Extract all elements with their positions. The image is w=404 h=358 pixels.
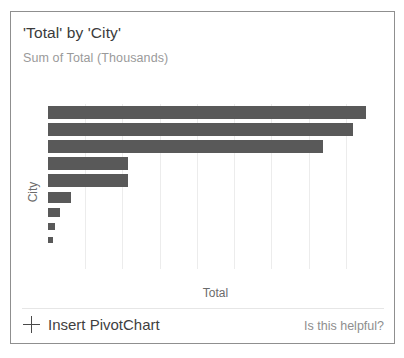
- footer-divider: [22, 308, 384, 309]
- pivotchart-recommendation-card: 'Total' by 'City' Sum of Total (Thousand…: [10, 11, 395, 344]
- plus-icon: [23, 316, 40, 333]
- bar-series: [48, 104, 383, 269]
- bar-row: [48, 106, 383, 119]
- y-axis-title-label: City: [26, 181, 40, 202]
- y-axis-title: City: [23, 104, 43, 279]
- bar-row: [48, 208, 383, 217]
- bar: [48, 237, 53, 243]
- chart-header: 'Total' by 'City' Sum of Total (Thousand…: [23, 24, 386, 65]
- bar: [48, 174, 128, 187]
- bar: [48, 140, 323, 153]
- bar-row: [48, 237, 383, 243]
- plot-area: [48, 104, 383, 269]
- chart-title: 'Total' by 'City': [23, 24, 386, 42]
- bar-row: [48, 174, 383, 187]
- bar: [48, 157, 128, 170]
- bar: [48, 106, 366, 119]
- bar-row: [48, 223, 383, 230]
- bar: [48, 123, 353, 136]
- bar: [48, 192, 71, 203]
- card-footer: Insert PivotChart Is this helpful?: [11, 314, 396, 344]
- chart-plot-wrapper: City Total: [23, 104, 383, 279]
- bar-row: [48, 140, 383, 153]
- bar: [48, 208, 60, 217]
- bar-row: [48, 192, 383, 203]
- insert-pivotchart-button[interactable]: Insert PivotChart: [23, 316, 160, 333]
- x-axis-title: Total: [48, 286, 383, 300]
- bar-row: [48, 157, 383, 170]
- chart-subtitle: Sum of Total (Thousands): [23, 51, 386, 65]
- is-this-helpful-link[interactable]: Is this helpful?: [304, 319, 384, 333]
- bar: [48, 223, 55, 230]
- insert-pivotchart-label: Insert PivotChart: [48, 316, 160, 333]
- bar-row: [48, 123, 383, 136]
